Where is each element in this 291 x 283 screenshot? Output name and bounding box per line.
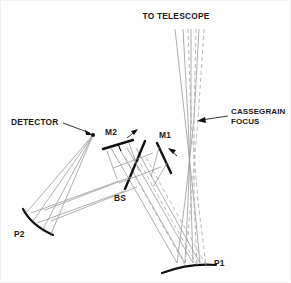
label-detector: DETECTOR [11,117,59,127]
mirror-m2 [103,140,133,151]
label-to-telescope: TO TELESCOPE [143,11,210,21]
beam-splitter [125,141,145,189]
optical-diagram: TO TELESCOPE CASSEGRAIN FOCUS DETECTOR M… [0,0,291,283]
label-mirror-m1: M1 [159,130,171,140]
parabola-p1-mirror [162,265,216,273]
m1-adjust-arrow-icon [168,148,177,156]
parabola-p2-mirror [23,209,53,235]
optical-diagram-canvas: TO TELESCOPE CASSEGRAIN FOCUS DETECTOR M… [1,1,291,283]
label-cassegrain-focus-line1: CASSEGRAIN [231,107,285,116]
label-beam-splitter: BS [114,193,126,203]
label-parabola-p2: P2 [14,229,25,239]
label-cassegrain-focus-line2: FOCUS [231,117,260,126]
m2-adjust-arrow-icon [127,129,138,138]
p2-to-detector-rays [26,135,93,234]
label-parabola-p1: P1 [214,258,225,268]
cassegrain-focus-leader-line [197,116,228,123]
detector-leader-line [63,123,93,135]
label-mirror-m2: M2 [105,127,117,137]
telescope-beam-solid-rays [175,29,200,263]
p1-reflected-dashed-rays [125,157,206,265]
